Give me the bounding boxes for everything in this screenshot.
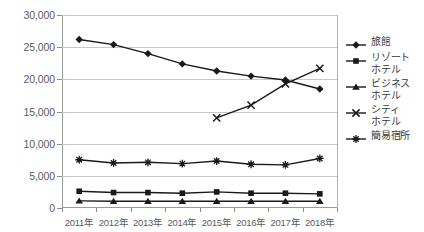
legend-divider (337, 15, 338, 208)
series-2 (75, 197, 323, 204)
y-axis-tick-label: 15,000 (23, 106, 55, 118)
data-point-asterisk (144, 158, 152, 166)
x-axis-tick (200, 208, 201, 212)
data-point-cross (316, 65, 323, 72)
legend-marker-diamond-icon (345, 37, 367, 49)
data-point-diamond (110, 41, 117, 48)
data-point-square (248, 190, 254, 196)
legend-marker-cross-icon (345, 105, 367, 117)
x-axis-tick-label: 2012年 (99, 215, 129, 229)
data-point-diamond (247, 72, 254, 79)
plot-frame: 05,00010,00015,00020,00025,00030,000 201… (62, 15, 337, 208)
data-point-diamond (316, 85, 323, 92)
legend-label: ビジネス ホテル (371, 78, 410, 101)
y-axis-tick-label: 20,000 (23, 73, 55, 85)
data-point-diamond (213, 67, 220, 74)
x-axis-tick-label: 2011年 (65, 215, 94, 229)
data-point-asterisk (178, 160, 186, 168)
x-axis-tick-label: 2016年 (236, 215, 266, 229)
x-axis-tick-label: 2014年 (167, 215, 197, 229)
data-point-diamond (144, 50, 151, 57)
data-point-asterisk (110, 159, 118, 167)
data-point-asterisk (352, 135, 360, 143)
data-point-square (111, 190, 117, 196)
data-point-diamond (75, 36, 82, 43)
x-axis-tick (268, 208, 269, 212)
y-axis-tick-label: 10,000 (23, 138, 55, 150)
y-axis-tick-label: 30,000 (23, 9, 55, 21)
series-line (217, 68, 320, 118)
y-axis-tick-label: 5,000 (29, 170, 55, 182)
x-axis-tick-label: 2018年 (305, 215, 335, 229)
x-axis-tick (131, 208, 132, 212)
y-axis-tick-label: 25,000 (23, 41, 55, 53)
legend-marker-square-icon (345, 53, 367, 65)
data-point-asterisk (213, 157, 221, 165)
series-1 (76, 188, 322, 196)
legend-label: 旅館 (371, 36, 391, 48)
data-point-asterisk (247, 160, 255, 168)
data-point-square (145, 190, 151, 196)
data-point-diamond (179, 60, 186, 67)
legend-marker-triangle-icon (345, 79, 367, 91)
x-axis-tick-label: 2017年 (271, 215, 301, 229)
legend-item: シティ ホテル (345, 104, 424, 127)
x-axis-tick (303, 208, 304, 212)
data-point-cross (213, 114, 220, 121)
legend-label: シティ ホテル (371, 104, 400, 127)
legend-item: 旅館 (345, 36, 424, 49)
x-axis-tick (62, 208, 63, 212)
data-point-square (283, 190, 289, 196)
data-point-square (317, 191, 323, 197)
data-point-square (353, 58, 359, 64)
x-axis-tick (234, 208, 235, 212)
data-point-square (76, 188, 82, 194)
legend-marker-asterisk-icon (345, 131, 367, 143)
legend-item: 簡易宿所 (345, 130, 424, 143)
x-axis-tick (96, 208, 97, 212)
x-axis-tick (337, 208, 338, 212)
legend-item: ビジネス ホテル (345, 78, 424, 101)
data-point-asterisk (282, 161, 290, 169)
chart-legend: 旅館リゾート ホテルビジネス ホテルシティ ホテル簡易宿所 (345, 36, 424, 146)
legend-label: リゾート ホテル (371, 52, 410, 75)
series-layer (62, 15, 337, 208)
x-axis-tick-label: 2015年 (202, 215, 232, 229)
legend-item: リゾート ホテル (345, 52, 424, 75)
data-point-diamond (352, 41, 359, 48)
legend-label: 簡易宿所 (371, 130, 410, 142)
chart-screenshot: 05,00010,00015,00020,00025,00030,000 201… (0, 0, 424, 232)
x-axis-tick (165, 208, 166, 212)
data-point-cross (247, 101, 254, 108)
series-4 (75, 155, 323, 169)
y-axis-tick-label: 0 (49, 202, 55, 214)
x-axis-tick-label: 2013年 (133, 215, 163, 229)
plot-area: 05,00010,00015,00020,00025,00030,000 201… (62, 15, 337, 208)
data-point-asterisk (75, 156, 83, 164)
data-point-asterisk (316, 155, 324, 163)
data-point-square (214, 189, 220, 195)
data-point-square (180, 190, 186, 196)
